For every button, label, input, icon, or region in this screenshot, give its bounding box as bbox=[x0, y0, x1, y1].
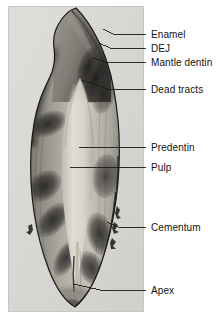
label-pulp: Pulp bbox=[151, 162, 171, 173]
micrograph-panel bbox=[8, 6, 144, 312]
label-mantle-dentin: Mantle dentin bbox=[151, 57, 212, 68]
label-dead-tracts: Dead tracts bbox=[151, 84, 203, 95]
tooth-ground-section-image bbox=[8, 6, 144, 312]
label-apex: Apex bbox=[151, 285, 174, 296]
tooth-section-figure: Enamel DEJ Mantle dentin Dead tracts Pre… bbox=[0, 0, 220, 318]
label-enamel: Enamel bbox=[151, 29, 186, 40]
label-dej: DEJ bbox=[151, 43, 170, 54]
label-cementum: Cementum bbox=[151, 222, 201, 233]
label-predentin: Predentin bbox=[151, 142, 195, 153]
